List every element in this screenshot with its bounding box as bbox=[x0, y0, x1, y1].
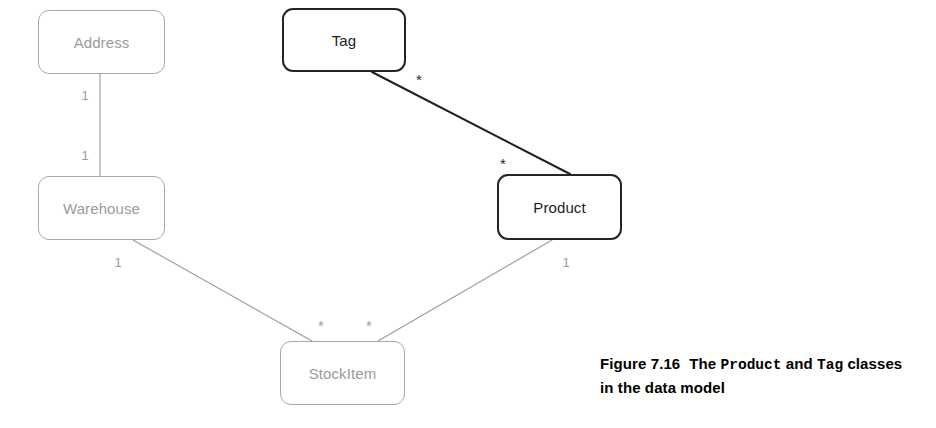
class-label-stockitem: StockItem bbox=[309, 366, 377, 381]
class-box-tag[interactable]: Tag bbox=[282, 8, 406, 72]
association-line-product-stockitem bbox=[378, 240, 552, 341]
class-box-address[interactable]: Address bbox=[38, 10, 165, 74]
multiplicity-product-stockitem-to: * bbox=[366, 318, 372, 333]
figure-caption: Figure 7.16The Product and Tag classes i… bbox=[600, 352, 920, 400]
caption-class-name-tag: Tag bbox=[817, 357, 843, 373]
association-line-warehouse-stockitem bbox=[133, 240, 312, 341]
class-box-warehouse[interactable]: Warehouse bbox=[38, 176, 165, 240]
class-label-warehouse: Warehouse bbox=[63, 201, 140, 216]
multiplicity-tag-product-from: * bbox=[416, 72, 422, 87]
association-line-tag-product bbox=[372, 72, 570, 174]
class-label-tag: Tag bbox=[332, 33, 357, 48]
class-label-address: Address bbox=[74, 35, 130, 50]
class-box-stockitem[interactable]: StockItem bbox=[280, 341, 405, 405]
class-box-product[interactable]: Product bbox=[497, 174, 622, 240]
multiplicity-warehouse-stockitem-to: * bbox=[318, 318, 324, 333]
multiplicity-warehouse-stockitem-from: 1 bbox=[114, 256, 121, 269]
multiplicity-product-stockitem-from: 1 bbox=[562, 256, 569, 269]
figure-page: AddressTagWarehouseProductStockItem 11**… bbox=[0, 0, 936, 428]
caption-figure-number: Figure 7.16 bbox=[600, 355, 680, 372]
caption-text-part2: and bbox=[786, 355, 813, 372]
caption-text-part1: The bbox=[689, 355, 716, 372]
multiplicity-address-warehouse-from: 1 bbox=[81, 89, 88, 102]
class-label-product: Product bbox=[533, 200, 585, 215]
multiplicity-tag-product-to: * bbox=[500, 156, 506, 171]
caption-class-name-product: Product bbox=[721, 357, 782, 373]
multiplicity-address-warehouse-to: 1 bbox=[81, 149, 88, 162]
